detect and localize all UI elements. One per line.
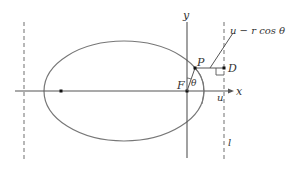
point-P-label: P xyxy=(196,56,205,69)
point-D xyxy=(223,67,226,70)
angle-theta-label: θ xyxy=(191,78,197,88)
focus-label: F xyxy=(176,79,185,92)
x-axis-label: x xyxy=(236,85,243,98)
point-D-label: D xyxy=(227,62,237,75)
distance-expression: u − r cos θ xyxy=(230,25,285,36)
left-focus-point xyxy=(60,90,63,93)
x-axis-arrow-icon xyxy=(228,89,234,94)
ellipse-directrix-diagram: y x F P D θ u l u − r cos θ xyxy=(0,0,290,172)
directrix-label: l xyxy=(228,137,231,148)
u-mark-label: u xyxy=(217,92,223,103)
y-axis-label: y xyxy=(182,9,190,22)
